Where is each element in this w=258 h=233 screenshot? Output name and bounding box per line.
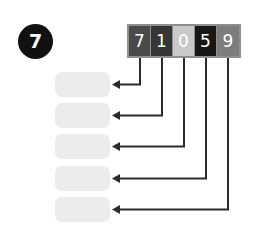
arrowhead-icon: [112, 80, 120, 89]
connector-line: [119, 58, 228, 210]
arrowhead-icon: [112, 111, 120, 120]
digit-cell-0: 0: [173, 26, 195, 56]
worksheet-exercise: 7 71059: [0, 0, 258, 233]
answer-box[interactable]: [55, 72, 110, 97]
answer-box[interactable]: [55, 103, 110, 128]
digit-strip: 71059: [127, 24, 241, 58]
arrowhead-icon: [112, 205, 120, 214]
exercise-number-badge: 7: [18, 24, 53, 59]
connector-line: [119, 58, 162, 116]
answer-box[interactable]: [55, 134, 110, 159]
answer-box[interactable]: [55, 166, 110, 191]
answer-box[interactable]: [55, 197, 110, 222]
arrowhead-icon: [112, 174, 120, 183]
arrowhead-icon: [112, 142, 120, 151]
digit-cell-1: 1: [151, 26, 173, 56]
connector-line: [119, 58, 206, 179]
digit-cell-7: 7: [129, 26, 151, 56]
connector-line: [119, 58, 184, 147]
digit-cell-5: 5: [195, 26, 217, 56]
digit-cell-9: 9: [217, 26, 239, 56]
connector-line: [119, 58, 140, 85]
